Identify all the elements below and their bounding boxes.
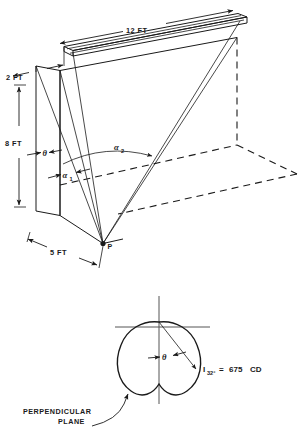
angle-theta-marker: θ — [27, 148, 62, 158]
lower-diagram-group: θ I 32° = 675 CD PERPENDICULAR PLANE — [23, 296, 262, 426]
intensity-subscript: 32° — [207, 370, 215, 376]
luminaire-fixture — [64, 14, 247, 57]
point-p-label: P — [108, 243, 113, 250]
angle-alpha1-label: α — [63, 170, 68, 180]
angle-alpha1-subscript: 1 — [70, 176, 73, 182]
dimension-8ft-label: 8 FT — [5, 139, 22, 148]
intensity-value: 675 — [229, 365, 243, 374]
intensity-label-group: I 32° = 675 CD — [203, 365, 262, 376]
dimension-2ft: 2 FT — [6, 47, 64, 83]
polar-theta-label: θ — [162, 352, 167, 362]
intensity-equals: = — [219, 365, 224, 374]
rays-to-point-p — [36, 21, 240, 244]
dimension-5ft-label: 5 FT — [50, 248, 67, 257]
angle-alpha2-subscript: 2 — [121, 148, 124, 154]
intensity-symbol: I — [203, 365, 205, 374]
perpendicular-plane-label-line1: PERPENDICULAR — [23, 407, 92, 416]
angle-alpha2-marker: α 2 — [63, 142, 152, 164]
figure-root: P 12 FT 2 FT 8 FT — [0, 0, 305, 435]
back-wall-plane — [60, 38, 237, 216]
dimension-12ft-label: 12 FT — [126, 26, 147, 35]
dimension-8ft: 8 FT — [5, 85, 26, 207]
perpendicular-plane-label-line2: PLANE — [58, 417, 85, 426]
wall-panel — [36, 66, 60, 216]
perpendicular-plane-callout: PERPENDICULAR PLANE — [23, 394, 128, 426]
intensity-unit: CD — [250, 365, 262, 374]
angle-theta-label: θ — [43, 148, 48, 158]
dimension-2ft-label: 2 FT — [6, 73, 23, 82]
technical-illustration: P 12 FT 2 FT 8 FT — [0, 0, 305, 435]
polar-angle-theta: θ — [148, 352, 186, 362]
upper-diagram-group: P 12 FT 2 FT 8 FT — [5, 11, 297, 269]
angle-alpha2-label: α — [114, 142, 119, 152]
dimension-5ft: 5 FT — [27, 232, 103, 268]
